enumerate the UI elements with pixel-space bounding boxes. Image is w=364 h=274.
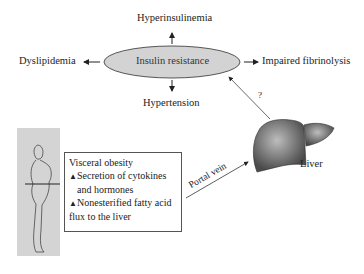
liver-label: Liver xyxy=(300,158,323,169)
nefa-line2: flux to the liver xyxy=(69,210,177,223)
up-arrow-icon: ▲ xyxy=(69,197,77,210)
unknown-link-label: ? xyxy=(258,90,262,100)
impaired-fibrinolysis-label: Impaired fibrinolysis xyxy=(262,55,350,66)
dyslipidemia-label: Dyslipidemia xyxy=(19,55,76,66)
diagram-graphics xyxy=(0,0,364,274)
hyperinsulinemia-label: Hyperinsulinemia xyxy=(137,12,212,23)
insulin-resistance-label: Insulin resistance xyxy=(136,55,209,66)
box-title: Visceral obesity xyxy=(69,156,177,169)
nefa-line1: Nonesterified fatty acid xyxy=(77,197,171,208)
up-arrow-icon: ▲ xyxy=(69,170,77,183)
cytokines-line2: and hormones xyxy=(69,183,177,196)
cytokines-line1: Secretion of cytokines xyxy=(77,170,166,181)
visceral-obesity-box: Visceral obesity ▲Secretion of cytokines… xyxy=(64,152,182,232)
human-figure-icon xyxy=(31,145,51,252)
hypertension-label: Hypertension xyxy=(143,97,200,108)
